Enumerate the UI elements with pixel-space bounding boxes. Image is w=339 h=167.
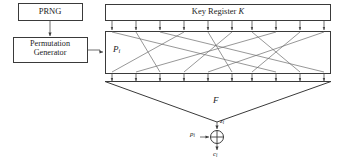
- key-register-tap-arrows: [112, 21, 324, 31]
- xor-gate: [211, 131, 224, 144]
- plaintext-label: pi: [190, 131, 195, 138]
- key-register-symbol: K: [239, 6, 245, 16]
- diagram-vector-layer: [0, 0, 339, 167]
- prng-label: PRNG: [22, 7, 78, 16]
- keystream-label-sub: i: [223, 120, 224, 125]
- keystream-label: zi: [220, 118, 224, 125]
- permutation-box-label-sub: i: [119, 47, 121, 54]
- permutation-generator-label: Permutation Generator: [13, 40, 87, 57]
- key-register-label: Key Register K: [105, 7, 331, 16]
- diagram-canvas: PRNG Permutation Generator Key Register …: [0, 0, 339, 167]
- ciphertext-label: ci: [213, 151, 218, 158]
- key-register-label-text: Key Register: [192, 6, 239, 16]
- function-label: F: [213, 96, 219, 105]
- plaintext-label-sub: i: [194, 133, 195, 138]
- permutation-box-label: Pi: [113, 45, 120, 55]
- permgen-to-permbox-arrow: [88, 50, 104, 52]
- permutation-generator-label-line2: Generator: [13, 49, 87, 58]
- ciphertext-label-sub: i: [216, 153, 217, 158]
- permutation-output-arrows: [112, 74, 324, 82]
